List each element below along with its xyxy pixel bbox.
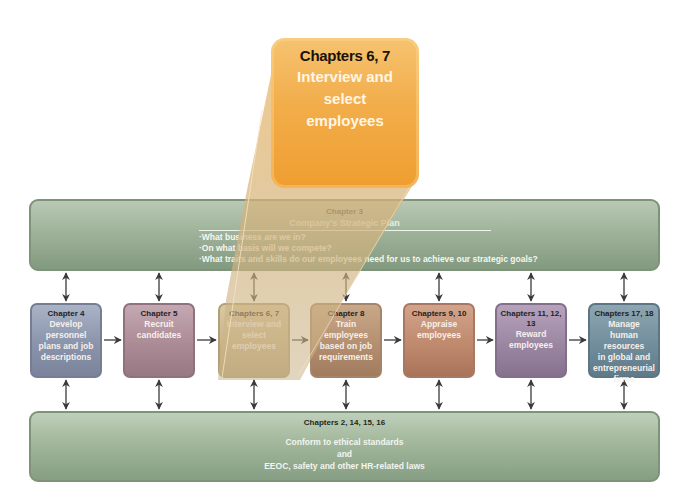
step-label: human resources [590,330,658,352]
step-label: employees [405,330,473,341]
step-label: personnel [32,330,100,341]
step-manage-global: Chapters 17, 18 Manage human resources i… [588,303,660,378]
step-chapter: Chapters 17, 18 [590,309,658,319]
step-label: Train [312,319,380,330]
highlight-callout: Chapters 6, 7 Interview and select emplo… [271,38,419,188]
step-chapter: Chapter 4 [32,309,100,319]
step-label: Develop [32,319,100,330]
step-label: in global and [590,352,658,363]
step-chapter: Chapters 11, 12, 13 [497,309,565,329]
step-label: employees [497,340,565,351]
step-label: based on job [312,341,380,352]
step-chapter: Chapters 6, 7 [220,309,288,319]
step-label: employees [220,341,288,352]
step-label: descriptions [32,352,100,363]
step-interview-select: Chapters 6, 7 Interview and select emplo… [218,303,290,378]
step-develop-plans: Chapter 4 Develop personnel plans and jo… [30,303,102,378]
step-label: firms [590,374,658,385]
step-label: select [220,330,288,341]
step-label: plans and job [32,341,100,352]
callout-label: employees [271,111,419,131]
step-label: requirements [312,352,380,363]
step-recruit: Chapter 5 Recruit candidates [123,303,195,378]
callout-label: Interview and [271,67,419,87]
callout-chapter: Chapters 6, 7 [271,46,419,65]
step-chapter: Chapter 5 [125,309,193,319]
step-label: Recruit [125,319,193,330]
step-label: Appraise [405,319,473,330]
callout-label: select [271,89,419,109]
step-label: Interview and [220,319,288,330]
step-label: employees [312,330,380,341]
step-label: Reward [497,329,565,340]
step-label: Manage [590,319,658,330]
step-label: candidates [125,330,193,341]
step-chapter: Chapters 9, 10 [405,309,473,319]
step-reward: Chapters 11, 12, 13 Reward employees [495,303,567,378]
step-label: entrepreneurial [590,363,658,374]
step-train: Chapter 8 Train employees based on job r… [310,303,382,378]
step-appraise: Chapters 9, 10 Appraise employees [403,303,475,378]
step-chapter: Chapter 8 [312,309,380,319]
